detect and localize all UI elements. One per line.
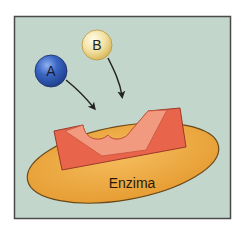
substrate-b: B <box>82 30 112 60</box>
substrate-a-label: A <box>46 63 56 79</box>
substrate-a: A <box>35 55 67 87</box>
substrate-b-label: B <box>92 37 101 53</box>
enzyme-substrate-diagram: Enzima A B <box>0 0 243 225</box>
enzyme-label: Enzima <box>109 175 156 191</box>
